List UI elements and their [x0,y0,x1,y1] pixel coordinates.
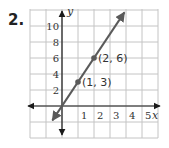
y-tick-label: 2 [53,85,59,96]
y-tick-label: 10 [46,21,59,32]
y-tick-label: 8 [53,37,59,48]
line-series [52,12,124,120]
y-tick-label: 4 [53,69,59,80]
data-point [91,55,97,61]
point-label: (2, 6) [98,52,128,65]
coordinate-graph: 12345246810xy (1, 3)(2, 6) [0,0,169,148]
x-tick-label: 1 [81,110,87,121]
x-axis-label: x [152,109,159,122]
data-series [52,12,124,120]
y-axis-label: y [66,5,74,18]
y-tick-label: 6 [53,53,59,64]
x-tick-label: 4 [129,110,135,121]
x-tick-label: 2 [97,110,103,121]
point-label: (1, 3) [82,76,112,89]
data-point [75,79,81,85]
x-tick-label: 5 [145,110,151,121]
x-tick-label: 3 [113,110,119,121]
